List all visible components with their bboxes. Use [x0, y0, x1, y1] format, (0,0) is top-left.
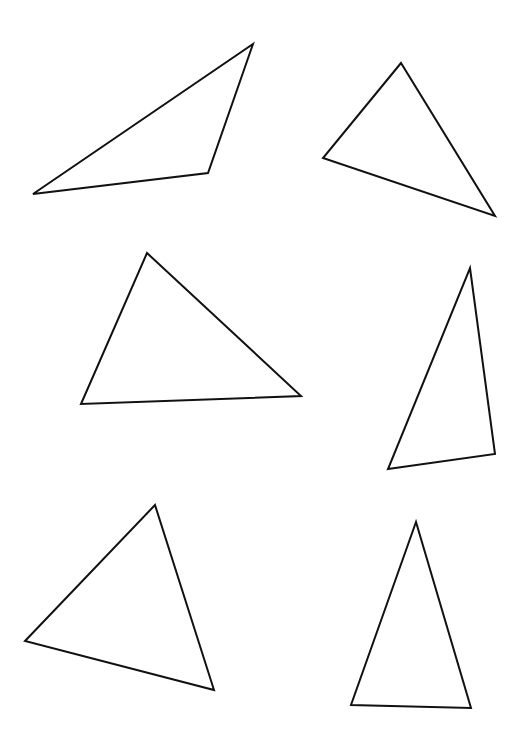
triangle-2	[323, 63, 495, 216]
triangle-canvas	[0, 0, 528, 743]
triangle-1	[33, 44, 253, 194]
triangle-6	[351, 522, 471, 708]
triangle-5	[25, 505, 214, 690]
triangle-4	[388, 268, 495, 469]
triangle-3	[81, 253, 301, 404]
